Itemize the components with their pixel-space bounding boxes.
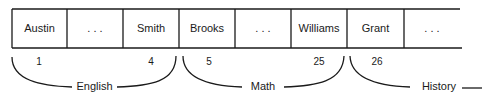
cell-smith: Smith <box>137 22 165 34</box>
cell-ellipsis: . . . <box>255 22 270 34</box>
cell-austin: Austin <box>24 22 55 34</box>
cell-ellipsis: . . . <box>87 22 102 34</box>
group-label-english: English <box>76 80 112 92</box>
brace-math-left <box>183 56 242 87</box>
cell-grant: Grant <box>362 22 390 34</box>
group-label-math: Math <box>251 80 275 92</box>
index-numbers: 1 4 5 25 26 <box>36 56 383 67</box>
brace-english-right <box>117 56 176 87</box>
brace-history: History <box>350 56 482 92</box>
array-table <box>12 9 462 48</box>
index-history-start: 26 <box>371 56 383 67</box>
cell-ellipsis: . . . <box>424 22 439 34</box>
cell-labels: Austin . . . Smith Brooks . . . Williams… <box>24 22 439 34</box>
array-diagram: Austin . . . Smith Brooks . . . Williams… <box>0 0 494 102</box>
index-math-start: 5 <box>206 56 212 67</box>
cell-brooks: Brooks <box>190 22 225 34</box>
index-english-start: 1 <box>36 56 42 67</box>
index-english-end: 4 <box>148 56 154 67</box>
index-math-end: 25 <box>313 56 325 67</box>
brace-english-left <box>12 57 72 87</box>
cell-williams: Williams <box>299 22 340 34</box>
group-label-history: History <box>422 80 457 92</box>
